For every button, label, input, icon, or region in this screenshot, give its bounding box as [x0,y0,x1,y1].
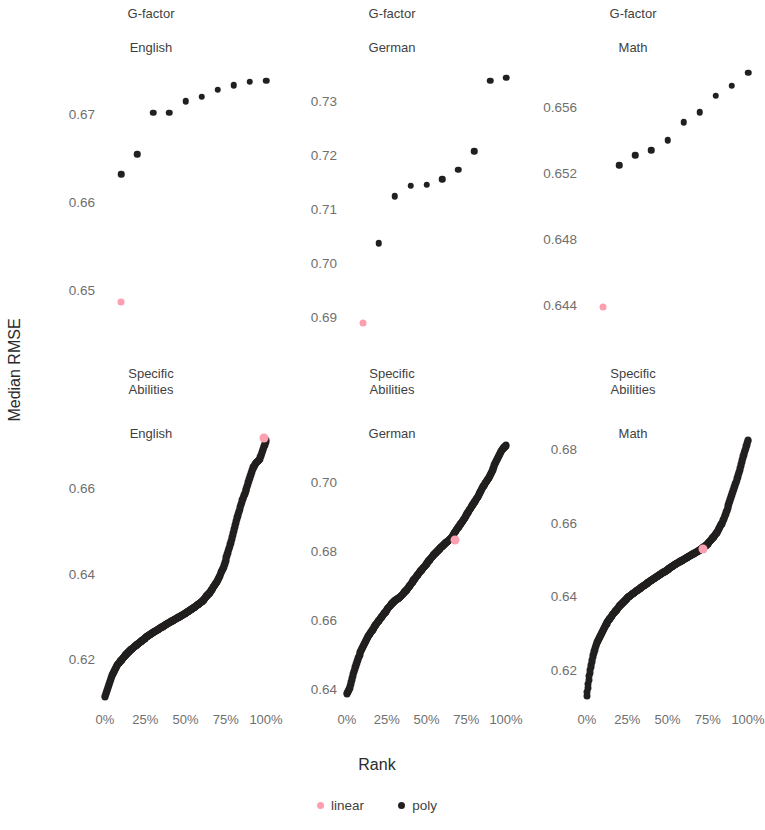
x-axis-tick-label: 75% [213,712,239,727]
panel-gfactor-german: G-factorGerman0.730.720.710.700.69 [272,0,512,360]
x-axis-tick-label: 25% [374,712,400,727]
y-axis-tick-label: 0.648 [512,232,577,247]
legend-item-poly[interactable]: poly [398,798,437,813]
panel-strip-top: Specific Abilities [512,366,754,398]
data-point-poly [632,152,639,159]
y-axis-tick-label: 0.66 [30,195,95,210]
panel-strip-bottom: Math [512,426,754,442]
y-axis-tick-label: 0.66 [272,612,337,627]
y-axis-tick-label: 0.62 [512,662,577,677]
data-point-poly [423,181,430,188]
y-axis-tick-label: 0.71 [272,201,337,216]
y-axis-tick-label: 0.62 [30,652,95,667]
y-axis-tick-label: 0.66 [512,515,577,530]
y-axis-tick-label: 0.644 [512,298,577,313]
data-point-poly [182,98,189,105]
data-point-poly [455,167,462,174]
legend-item-linear[interactable]: linear [317,798,364,813]
panel-strip-bottom: German [272,40,512,56]
data-point-poly [503,442,510,449]
y-axis-tick-label: 0.69 [272,309,337,324]
x-axis-tick-label: 0% [338,712,357,727]
panel-specific-german: Specific AbilitiesGerman0.700.680.660.64… [272,360,512,740]
legend-label-poly: poly [412,798,437,813]
data-point-poly [648,147,655,154]
y-axis-tick-label: 0.70 [272,255,337,270]
data-point-linear [600,303,607,310]
data-point-poly [247,79,254,86]
x-axis-tick-label: 0% [578,712,597,727]
x-axis-tick-label: 25% [614,712,640,727]
data-point-linear [118,298,125,305]
x-axis-tick-label: 25% [132,712,158,727]
panel-strip-top: Specific Abilities [30,366,272,398]
data-point-poly [713,92,720,99]
data-point-poly [376,240,383,247]
data-point-poly [118,171,125,178]
data-point-poly [134,151,141,158]
x-axis-tick-label: 50% [413,712,439,727]
data-point-poly [745,436,752,443]
y-axis-tick-label: 0.65 [30,283,95,298]
data-point-poly [150,109,157,116]
panel-strip-top: G-factor [272,6,512,22]
y-axis-tick-label: 0.64 [30,566,95,581]
panel-strip-top: G-factor [512,6,754,22]
y-axis-tick-label: 0.652 [512,166,577,181]
y-axis-tick-label: 0.656 [512,100,577,115]
panel-strip-top: G-factor [30,6,272,22]
data-point-poly [231,82,238,89]
y-axis-tick-label: 0.64 [512,589,577,604]
x-axis-tick-label: 50% [654,712,680,727]
legend: linear poly [0,798,754,813]
data-point-linear [451,535,460,544]
data-point-poly [616,162,623,169]
x-axis-title: Rank [0,756,754,774]
data-point-poly [745,69,752,76]
data-point-poly [198,94,205,101]
y-axis-tick-label: 0.64 [272,681,337,696]
panel-strip-bottom: English [30,426,272,442]
data-point-linear [359,319,366,326]
y-axis-tick-label: 0.68 [512,441,577,456]
data-point-poly [471,148,478,155]
panel-strip-bottom: German [272,426,512,442]
data-point-poly [214,87,221,94]
y-axis-tick-label: 0.70 [272,474,337,489]
data-point-poly [407,182,414,189]
panel-strip-bottom: English [30,40,272,56]
y-axis-title: Median RMSE [2,0,28,740]
data-point-poly [503,75,510,82]
y-axis-tick-label: 0.72 [272,147,337,162]
data-point-poly [696,109,703,116]
x-axis-tick-label: 75% [453,712,479,727]
panel-strip-top: Specific Abilities [272,366,512,398]
legend-swatch-linear-icon [317,802,324,809]
data-point-poly [680,119,687,126]
data-point-poly [729,83,736,90]
y-axis-tick-label: 0.66 [30,481,95,496]
y-axis-tick-label: 0.68 [272,543,337,558]
y-axis-tick-label: 0.73 [272,94,337,109]
x-axis-tick-label: 50% [172,712,198,727]
data-point-linear [698,545,707,554]
panel-specific-math: Specific AbilitiesMath0.680.660.640.620%… [512,360,754,740]
panel-strip-bottom: Math [512,40,754,56]
data-point-linear [260,434,269,443]
data-point-poly [166,109,173,116]
x-axis-tick-label: 75% [695,712,721,727]
panel-specific-english: Specific AbilitiesEnglish0.660.640.620%2… [30,360,272,740]
data-point-poly [487,77,494,84]
legend-label-linear: linear [331,798,364,813]
x-axis-tick-label: 100% [731,712,764,727]
legend-swatch-poly-icon [398,802,405,809]
data-point-poly [439,176,446,183]
data-point-poly [391,193,398,200]
data-point-poly [664,137,671,144]
panel-gfactor-math: G-factorMath0.6560.6520.6480.644 [512,0,754,360]
panel-gfactor-english: G-factorEnglish0.670.660.65 [30,0,272,360]
x-axis-tick-label: 0% [96,712,115,727]
y-axis-tick-label: 0.67 [30,107,95,122]
data-point-poly [263,78,270,85]
